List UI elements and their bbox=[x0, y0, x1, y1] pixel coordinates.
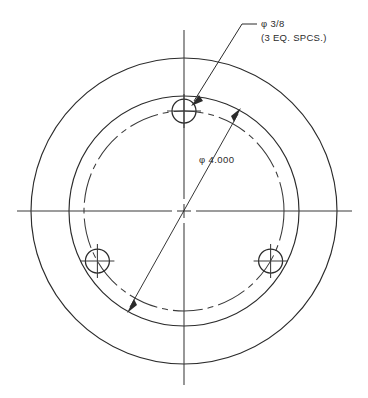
hole-size-callout-leader bbox=[191, 24, 257, 106]
diameter-arrowhead-upper bbox=[231, 108, 241, 122]
hole-lower-right-group bbox=[254, 244, 288, 278]
callout-leader-diagonal bbox=[194, 24, 242, 101]
engineering-drawing: φ 4.000 φ 3/8 (3 EQ. SPCS.) bbox=[0, 0, 368, 398]
hole-size-callout-line1: φ 3/8 bbox=[261, 18, 285, 29]
hole-lower-left-group bbox=[80, 244, 114, 278]
hole-size-callout-text-group: φ 3/8 (3 EQ. SPCS.) bbox=[261, 18, 327, 43]
main-centerlines-group bbox=[17, 30, 352, 385]
diameter-dimension-label: φ 4.000 bbox=[199, 154, 234, 165]
diameter-arrowhead-lower bbox=[127, 299, 137, 313]
hole-top-group bbox=[167, 94, 201, 128]
drawing-canvas: φ 4.000 φ 3/8 (3 EQ. SPCS.) bbox=[0, 0, 368, 398]
hole-size-callout-line2: (3 EQ. SPCS.) bbox=[261, 32, 327, 43]
